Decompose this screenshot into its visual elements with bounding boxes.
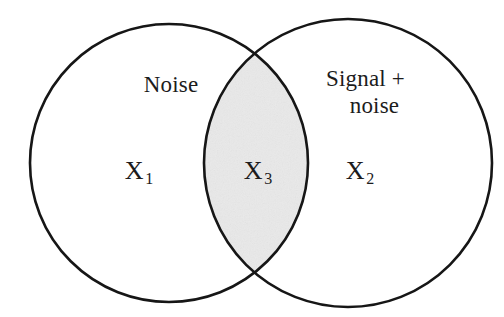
right-set-name-line-2: noise	[294, 93, 437, 120]
right-set-variable-subscript: 2	[365, 170, 375, 187]
left-set-variable-subscript: 1	[144, 170, 154, 187]
right-set-name-label: Signal +noise	[294, 66, 437, 119]
left-set-variable-base: X	[125, 156, 144, 185]
right-set-variable-base: X	[346, 156, 365, 185]
right-set-variable-label: X2	[325, 156, 395, 189]
venn-diagram-figure: Noise Signal +noise X1 X3 X2	[0, 0, 504, 317]
intersection-variable-base: X	[244, 156, 263, 185]
left-set-variable-label: X1	[104, 156, 174, 189]
left-set-name-label: Noise	[101, 72, 241, 99]
intersection-variable-subscript: 3	[263, 170, 273, 187]
right-set-name-line-1: Signal +	[326, 66, 405, 91]
intersection-variable-label: X3	[223, 156, 293, 189]
